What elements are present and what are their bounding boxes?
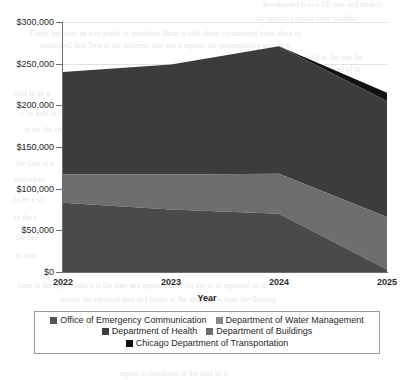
x-axis-title: Year: [0, 293, 414, 303]
y-axis-tick: [56, 272, 62, 273]
x-axis-tick-label: 2025: [377, 277, 397, 287]
y-axis-tick-label: $150,000: [0, 142, 54, 152]
legend-swatch-icon: [126, 340, 133, 347]
legend-item[interactable]: Department of Buildings: [206, 326, 312, 337]
legend-swatch-icon: [206, 328, 213, 335]
legend-swatch-icon: [102, 328, 109, 335]
legend-item-label: Chicago Department of Transportation: [136, 338, 289, 349]
chart-legend: Office of Emergency CommunicationDepartm…: [34, 311, 380, 354]
x-axis-line: [62, 272, 388, 273]
y-axis-tick-label: $200,000: [0, 100, 54, 110]
legend-swatch-icon: [216, 317, 223, 324]
legend-swatch-icon: [50, 317, 57, 324]
y-axis-line: [62, 22, 63, 273]
y-axis-tick-label: $250,000: [0, 59, 54, 69]
area-series-svg: [63, 22, 387, 272]
x-axis-tick-label: 2024: [269, 277, 289, 287]
y-axis-tick: [56, 105, 62, 106]
plot-area: [63, 22, 387, 272]
y-axis-tick-label: $0: [0, 267, 54, 277]
y-axis-tick: [56, 22, 62, 23]
legend-row: Department of HealthDepartment of Buildi…: [39, 326, 375, 337]
y-axis-tick-label: $300,000: [0, 17, 54, 27]
legend-item[interactable]: Department of Water Management: [216, 315, 364, 326]
stacked-area-chart: $300,000$250,000$200,000$150,000$100,000…: [0, 0, 414, 380]
y-axis-tick: [56, 230, 62, 231]
y-axis-tick-label: $50,000: [0, 225, 54, 235]
legend-item-label: Department of Health: [112, 326, 198, 337]
legend-row: Office of Emergency CommunicationDepartm…: [39, 315, 375, 326]
y-axis-tick: [56, 64, 62, 65]
legend-item[interactable]: Office of Emergency Communication: [50, 315, 206, 326]
y-axis-tick: [56, 147, 62, 148]
x-axis-tick-label: 2022: [53, 277, 73, 287]
legend-item-label: Department of Buildings: [216, 326, 312, 337]
legend-item[interactable]: Department of Health: [102, 326, 198, 337]
legend-row: Chicago Department of Transportation: [39, 338, 375, 349]
legend-item-label: Office of Emergency Communication: [60, 315, 206, 326]
y-axis-tick: [56, 189, 62, 190]
x-axis-tick-label: 2023: [161, 277, 181, 287]
legend-item-label: Department of Water Management: [226, 315, 364, 326]
y-axis-tick-label: $100,000: [0, 184, 54, 194]
legend-item[interactable]: Chicago Department of Transportation: [126, 338, 289, 349]
